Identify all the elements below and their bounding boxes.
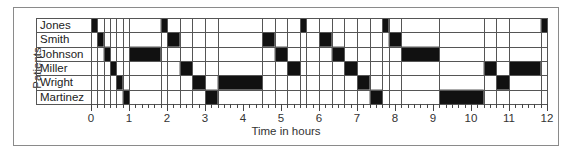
schedule-bar-miller [287,61,300,75]
x-tick-label: 9 [430,112,436,124]
x-axis-label: Time in hours [0,125,572,137]
x-tick-label: 7 [354,112,360,124]
schedule-bar-miller [509,61,541,75]
schedule-bar-miller [344,61,357,75]
schedule-bar-wright [116,75,122,89]
x-tick-label: 11 [503,112,515,124]
patient-label-miller: Miller [40,62,68,74]
x-tick-label: 0 [88,112,94,124]
schedule-bar-johnson [332,47,345,61]
patient-label-martinez: Martinez [40,91,84,103]
schedule-bar-johnson [129,47,161,61]
schedule-bar-wright [496,75,509,89]
schedule-bar-wright [192,75,205,89]
patient-label-jones: Jones [40,19,71,31]
schedule-bar-johnson [401,47,439,61]
schedule-bar-martinez [205,90,218,104]
schedule-bar-miller [484,61,497,75]
schedule-bar-smith [167,32,180,46]
schedule-bar-jones [382,18,388,32]
patient-label-johnson: Johnson [40,48,83,60]
schedule-bar-wright [357,75,370,89]
x-tick-label: 8 [392,112,398,124]
x-tick-label: 1 [126,112,132,124]
x-tick-label: 4 [240,112,247,124]
x-tick-label: 3 [202,112,208,124]
x-tick-label: 5 [278,112,284,124]
x-tick-label: 12 [541,112,554,124]
schedule-bar-smith [389,32,402,46]
schedule-bar-smith [97,32,103,46]
schedule-bar-miller [180,61,193,75]
schedule-bar-wright [218,75,262,89]
schedule-bar-martinez [370,90,383,104]
schedule-bar-martinez [439,90,483,104]
x-tick-label: 10 [465,112,478,124]
x-tick-label: 6 [316,112,322,124]
schedule-bar-johnson [275,47,288,61]
patient-label-wright: Wright [40,76,74,88]
x-tick-label: 2 [164,112,170,124]
schedule-bar-smith [319,32,332,46]
schedule-bar-smith [262,32,275,46]
patient-label-smith: Smith [40,33,69,45]
